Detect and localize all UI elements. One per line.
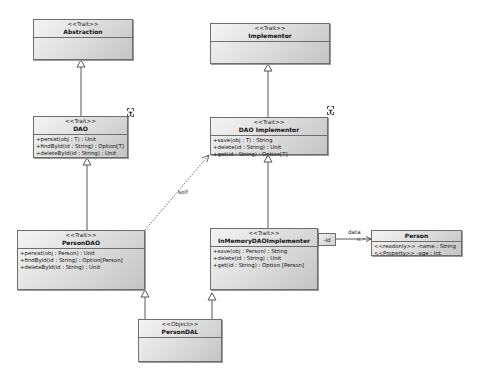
operation: +persist(obj : Person) : Unit (20, 250, 142, 257)
class-header: <<Trait>> DAO (34, 117, 127, 135)
class-header: <<Object>> PersonDAL (139, 320, 221, 338)
attributes: <<readonly>> -name : String <<Property>>… (372, 242, 461, 258)
class-header: Person (372, 231, 461, 242)
operations: +save(obj : Person) : String +delete(id … (211, 247, 317, 270)
operation: +save(obj : T) : String (213, 137, 325, 144)
class-dao[interactable]: <<Trait>> DAO +persist(obj : T) : Unit +… (33, 116, 128, 158)
operation: +deleteById(id : String) : Unit (36, 150, 125, 157)
attribute: <<Property>> -age : Int (374, 250, 459, 257)
class-header: <<Trait>> Implementor (211, 24, 329, 42)
template-parameter-marker: T (127, 108, 134, 117)
class-person-dao[interactable]: <<Trait>> PersonDAO +persist(obj : Perso… (17, 230, 145, 290)
class-name: DAO (34, 125, 127, 133)
operations: +save(obj : T) : String +delete(id : Str… (211, 136, 327, 159)
class-name: Person (372, 232, 461, 240)
stereotype: <<Trait>> (34, 118, 127, 125)
stereotype: <<Object>> (139, 321, 221, 328)
operation: +delete(id : String) : Unit (213, 255, 315, 262)
stereotype: <<Trait>> (34, 21, 132, 28)
class-name: PersonDAL (139, 328, 221, 336)
self-dependency-label: self (178, 189, 188, 196)
stereotype: <<Trait>> (18, 232, 144, 239)
class-header: <<Trait>> InMemoryDAOImplementer (211, 229, 317, 247)
operations: +persist(obj : T) : Unit +findById(id : … (34, 135, 127, 158)
attribute: <<readonly>> -name : String (374, 243, 459, 250)
operation: +get(id : String) : Option [Person] (213, 262, 315, 269)
class-name: PersonDAO (18, 239, 144, 247)
stereotype: <<Trait>> (211, 119, 327, 126)
stereotype: <<Trait>> (211, 230, 317, 237)
template-parameter-marker: T (327, 106, 334, 115)
operations: +persist(obj : Person) : Unit +findById(… (18, 249, 144, 272)
operation: +findById(id : String) : Option[Person] (20, 257, 142, 264)
class-header: <<Trait>> Abstraction (34, 20, 132, 38)
operation: +save(obj : Person) : String (213, 248, 315, 255)
class-person[interactable]: Person <<readonly>> -name : String <<Pro… (371, 230, 462, 256)
object-person-dal[interactable]: <<Object>> PersonDAL (138, 319, 222, 362)
operation: +persist(obj : T) : Unit (36, 136, 125, 143)
class-implementor[interactable]: <<Trait>> Implementor (210, 23, 330, 64)
class-abstraction[interactable]: <<Trait>> Abstraction (33, 19, 133, 60)
class-dao-implementor[interactable]: <<Trait>> DAO Implementor +save(obj : T)… (210, 117, 328, 155)
operation: +deleteById(id : String) : Unit (20, 264, 142, 271)
stereotype: <<Trait>> (211, 25, 329, 32)
class-header: <<Trait>> PersonDAO (18, 231, 144, 249)
class-name: Implementor (211, 32, 329, 40)
class-name: InMemoryDAOImplementer (211, 237, 317, 245)
class-name: DAO Implementor (211, 126, 327, 134)
qualifier-id[interactable]: -id (318, 233, 336, 246)
association-multiplicity: 0..* (357, 236, 365, 243)
operation: +findById(id : String) : Option[T] (36, 143, 125, 150)
operation: +get(id : String) : Option[T] (213, 151, 325, 158)
association-role-label: data (348, 229, 361, 236)
class-header: <<Trait>> DAO Implementor (211, 118, 327, 136)
class-inmemory-dao-implementer[interactable]: <<Trait>> InMemoryDAOImplementer +save(o… (210, 228, 318, 290)
class-name: Abstraction (34, 28, 132, 36)
operation: +delete(id : String) : Unit (213, 144, 325, 151)
